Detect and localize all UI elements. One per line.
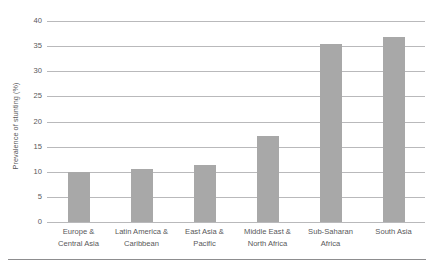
x-label-line: Caribbean (107, 238, 177, 250)
y-axis-tick-labels: 4035302520151050 (20, 21, 42, 222)
x-axis-label: South Asia (359, 226, 429, 238)
x-label-line: Middle East & (233, 226, 303, 238)
gridline-0 (47, 222, 425, 223)
y-tick-label: 25 (20, 92, 42, 100)
bar-slot (173, 21, 236, 222)
x-axis-label: Europe &Central Asia (44, 226, 114, 249)
bar (383, 37, 405, 222)
y-tick-label: 15 (20, 143, 42, 151)
x-label-line: South Asia (359, 226, 429, 238)
bar (194, 165, 216, 222)
y-tick-label: 20 (20, 118, 42, 126)
bar-slot (299, 21, 362, 222)
x-label-line: North Africa (233, 238, 303, 250)
y-tick-label: 5 (20, 193, 42, 201)
bar-chart-figure: Prevalence of stunting (%) 4035302520151… (0, 0, 434, 275)
x-label-line: Africa (296, 238, 366, 250)
y-tick-label: 40 (20, 17, 42, 25)
x-label-line: Sub-Saharan (296, 226, 366, 238)
x-label-line: Latin America & (107, 226, 177, 238)
bars-layer (47, 21, 425, 222)
footer-divider (8, 259, 426, 260)
bar-slot (236, 21, 299, 222)
y-tick-label: 0 (20, 218, 42, 226)
bar (257, 136, 279, 222)
x-label-line: Europe & (44, 226, 114, 238)
x-label-line: East Asia & (170, 226, 240, 238)
y-tick-label: 30 (20, 67, 42, 75)
x-axis-label: East Asia &Pacific (170, 226, 240, 249)
x-axis-label: Latin America &Caribbean (107, 226, 177, 249)
bar (320, 44, 342, 222)
y-tick-label: 10 (20, 168, 42, 176)
bar-slot (362, 21, 425, 222)
x-label-line: Central Asia (44, 238, 114, 250)
x-axis-label: Sub-SaharanAfrica (296, 226, 366, 249)
x-axis-category-labels: Europe &Central AsiaLatin America &Carib… (47, 226, 425, 256)
bar-slot (47, 21, 110, 222)
x-axis-label: Middle East &North Africa (233, 226, 303, 249)
x-label-line: Pacific (170, 238, 240, 250)
bar-slot (110, 21, 173, 222)
bar (131, 169, 153, 222)
bar (68, 172, 90, 222)
y-tick-label: 35 (20, 42, 42, 50)
